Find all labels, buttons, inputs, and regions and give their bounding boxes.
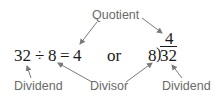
equation-equals: = [60,47,70,64]
quotient-label: Quotient [92,9,139,22]
arrow-dividend-left [27,66,31,78]
arrow-quotient-to-equation [80,22,97,44]
arrow-divisor-to-equation [58,63,92,82]
divisor-label: Divisor [90,80,128,93]
dividend-label-right: Dividend [162,80,211,93]
long-division-quotient: 4 [165,30,174,47]
arrow-divisor-to-long-division [126,63,152,82]
arrow-dividend-right [172,65,182,78]
equation-dividend: 32 [14,47,31,64]
or-connector: or [107,47,121,64]
equation-divisor: 8 [48,47,57,64]
long-division-dividend: 32 [160,47,177,64]
equation-operator: ÷ [35,47,44,64]
dividend-label-left: Dividend [14,80,63,93]
equation-quotient: 4 [73,47,82,64]
arrow-quotient-to-long-division [142,18,162,33]
